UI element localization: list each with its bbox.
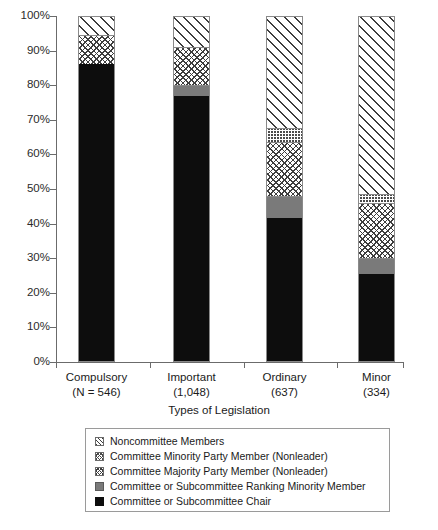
diagonal-hatch-swatch bbox=[95, 437, 104, 446]
chart-legend: Noncommittee MembersCommittee Minority P… bbox=[85, 428, 390, 512]
fine-grid-swatch bbox=[95, 452, 104, 461]
category-count: (N = 546) bbox=[42, 385, 152, 400]
legend-label: Committee Minority Party Member (Nonlead… bbox=[110, 451, 328, 462]
bar-segment-minority[interactable] bbox=[266, 128, 303, 142]
legend-item[interactable]: Committee or Subcommittee Chair bbox=[95, 494, 389, 509]
black-solid-swatch bbox=[95, 497, 104, 506]
bar-segment-ranking[interactable] bbox=[266, 196, 303, 218]
category-name: Important bbox=[167, 371, 216, 383]
bar-segment-chair[interactable] bbox=[358, 274, 395, 362]
bar-segment-majority[interactable] bbox=[78, 35, 115, 64]
legend-item[interactable]: Committee or Subcommittee Ranking Minori… bbox=[95, 479, 389, 494]
category-name: Ordinary bbox=[262, 371, 306, 383]
bar-stack[interactable] bbox=[173, 16, 210, 362]
bar-segment-noncommittee[interactable] bbox=[358, 16, 395, 194]
bar-stack[interactable] bbox=[266, 16, 303, 362]
x-axis-category-compulsory: Compulsory(N = 546) bbox=[42, 370, 152, 399]
cross-grid-swatch bbox=[95, 467, 104, 476]
bar-segment-noncommittee[interactable] bbox=[266, 16, 303, 128]
bar-stack[interactable] bbox=[358, 16, 395, 362]
x-axis-category-minor: Minor(334) bbox=[322, 370, 432, 399]
bar-segment-chair[interactable] bbox=[78, 64, 115, 362]
bar-segment-ranking[interactable] bbox=[173, 85, 210, 95]
chart-plot-area: 0%10%20%30%40%50%60%70%80%90%100% Compul… bbox=[0, 0, 438, 400]
bar-segment-noncommittee[interactable] bbox=[78, 16, 115, 35]
bar-segment-ranking[interactable] bbox=[358, 258, 395, 274]
bar-segment-majority[interactable] bbox=[358, 203, 395, 258]
bar-segment-majority[interactable] bbox=[173, 47, 210, 85]
legend-label: Committee Majority Party Member (Nonlead… bbox=[110, 466, 328, 477]
legend-label: Noncommittee Members bbox=[110, 436, 224, 447]
category-name: Minor bbox=[362, 371, 391, 383]
legend-item[interactable]: Committee Majority Party Member (Nonlead… bbox=[95, 464, 389, 479]
gray-solid-swatch bbox=[95, 482, 104, 491]
bar-segment-chair[interactable] bbox=[266, 218, 303, 362]
bar-segment-chair[interactable] bbox=[173, 96, 210, 362]
bar-stack[interactable] bbox=[78, 16, 115, 362]
bars-layer bbox=[0, 0, 438, 363]
legend-item[interactable]: Noncommittee Members bbox=[95, 434, 389, 449]
bar-segment-minority[interactable] bbox=[358, 194, 395, 203]
category-name: Compulsory bbox=[66, 371, 127, 383]
category-count: (334) bbox=[322, 385, 432, 400]
bar-segment-noncommittee[interactable] bbox=[173, 16, 210, 47]
legend-label: Committee or Subcommittee Chair bbox=[110, 496, 271, 507]
bar-segment-majority[interactable] bbox=[266, 142, 303, 196]
legend-label: Committee or Subcommittee Ranking Minori… bbox=[110, 481, 366, 492]
legend-item[interactable]: Committee Minority Party Member (Nonlead… bbox=[95, 449, 389, 464]
x-axis-title: Types of Legislation bbox=[0, 404, 438, 416]
